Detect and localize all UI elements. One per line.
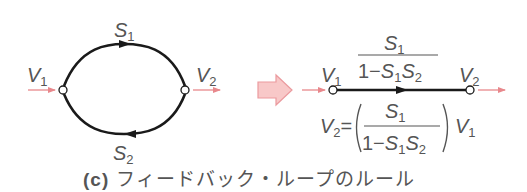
equation-denominator: 1−S1S2 — [362, 132, 426, 157]
feedback-loop-graph: V1 V2 S1 S2 — [27, 19, 220, 167]
forward-branch-s1 — [64, 44, 185, 86]
reduced-label-v1: V1 — [321, 64, 342, 89]
caption-text: フィードバック・ループのルール — [109, 168, 415, 190]
reduced-graph: V1 V2 S1 1−S1S2 — [302, 32, 505, 94]
branch-gain-denominator: 1−S1S2 — [358, 60, 422, 85]
transform-arrow-icon — [258, 75, 292, 105]
equation-left-paren — [357, 104, 362, 152]
label-s1: S1 — [114, 19, 135, 44]
feedback-direction-arrow-icon — [124, 130, 136, 138]
node-v1 — [59, 86, 67, 94]
reduced-direction-arrow-icon — [396, 86, 408, 94]
transfer-equation: V2= S1 1−S1S2 V1 — [320, 100, 476, 157]
reduced-label-v2: V2 — [459, 64, 480, 89]
equation-lhs: V2= — [320, 115, 352, 140]
figure-caption: (c) フィードバック・ループのルール — [83, 164, 415, 191]
caption-tag: (c) — [83, 169, 109, 190]
branch-gain-numerator: S1 — [384, 32, 405, 57]
label-v1: V1 — [27, 64, 48, 89]
equation-right-paren — [443, 104, 448, 152]
label-v2: V2 — [196, 64, 217, 89]
equation-rhs: V1 — [455, 115, 476, 140]
node-v2 — [181, 86, 189, 94]
feedback-branch-s2 — [64, 94, 185, 134]
equation-numerator: S1 — [385, 100, 406, 125]
